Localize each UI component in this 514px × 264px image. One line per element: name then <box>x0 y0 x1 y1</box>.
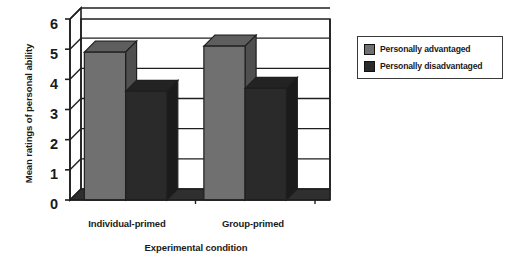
bar-group-primed-personally-advantaged <box>204 46 245 200</box>
bar-individual-primed-personally-disadvantaged <box>126 91 167 200</box>
legend-label-advantaged: Personally advantaged <box>380 44 470 54</box>
bar-individual-primed-personally-advantaged <box>84 52 125 200</box>
y-tick-1: 1 <box>38 167 58 182</box>
chart-legend: Personally advantaged Personally disadva… <box>357 36 503 79</box>
y-tick-6: 6 <box>38 17 58 32</box>
gridline-depth-2 <box>70 129 81 140</box>
gridline-depth-5 <box>70 38 81 49</box>
bar-side-face-0-1 <box>167 80 178 200</box>
gridline-depth-3 <box>70 99 81 110</box>
y-tick-0: 0 <box>38 197 58 212</box>
legend-label-disadvantaged: Personally disadvantaged <box>380 61 482 71</box>
y-axis-tick-labels: 6 5 4 3 2 1 0 <box>32 0 58 264</box>
legend-item-advantaged: Personally advantaged <box>364 42 497 56</box>
y-tick-4: 4 <box>38 77 58 92</box>
y-tick-3: 3 <box>38 107 58 122</box>
y-tick-5: 5 <box>38 47 58 62</box>
x-tick-individual-primed: Individual-primed <box>62 218 192 229</box>
plot-area <box>60 6 332 214</box>
x-axis-title: Experimental condition <box>60 242 332 253</box>
bar-group-primed-personally-disadvantaged <box>245 88 286 200</box>
bar-side-face-1-1 <box>286 77 297 200</box>
bar-chart-figure: Mean ratings of personal ability 6 5 4 3… <box>0 0 514 264</box>
plot-svg <box>60 6 332 214</box>
legend-item-disadvantaged: Personally disadvantaged <box>364 59 497 73</box>
legend-swatch-icon-advantaged <box>364 44 375 55</box>
legend-swatch-icon-disadvantaged <box>364 61 375 72</box>
gridline-depth-4 <box>70 68 81 79</box>
gridline-depth-1 <box>70 159 81 170</box>
x-tick-group-primed: Group-primed <box>188 218 318 229</box>
y-tick-2: 2 <box>38 137 58 152</box>
